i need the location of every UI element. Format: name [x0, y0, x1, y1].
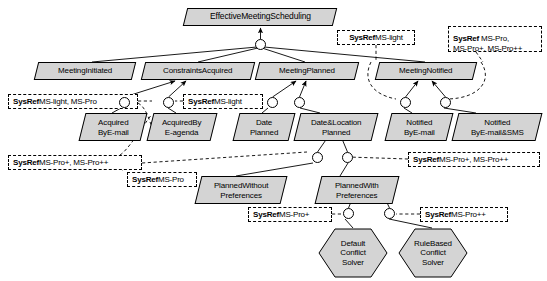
goal-node-root[interactable]: EffectiveMeetingScheduling	[183, 8, 337, 26]
goal-node-notified-by-email-sms[interactable]: Notified ByE-mail&SMS	[452, 113, 543, 141]
sysref-annotation-2[interactable]: SysRef MS-light	[183, 94, 263, 109]
goal-node-constraints-acquired[interactable]: ConstraintsAcquired	[141, 62, 255, 80]
decomposition-node-datelocation-2[interactable]	[342, 152, 353, 163]
sysref-annotation-5[interactable]: SysRef MS-Pro+, MS-Pro++	[8, 155, 142, 170]
goal-label: Acquired ByE-mail	[98, 118, 129, 137]
task-node-rulebased-conflict-solver[interactable]: RuleBased Conflict Solver	[398, 228, 468, 278]
sysref-key: SysRef	[425, 210, 451, 220]
decomposition-node-planned-1[interactable]	[267, 97, 278, 108]
sysref-key: SysRef	[453, 34, 479, 43]
sysref-annotation-9[interactable]: SysRef MS-Pro++	[420, 207, 508, 222]
goal-label: Notified ByE-mail	[404, 118, 435, 137]
goal-label: MeetingPlanned	[279, 66, 335, 76]
sysref-annotation-8[interactable]: SysRef MS-Pro+	[248, 207, 332, 222]
decomposition-node-root[interactable]	[255, 39, 266, 50]
decomposition-node-datelocation-1[interactable]	[312, 152, 323, 163]
goal-node-acquired-by-eagenda[interactable]: AcquiredBy E-agenda	[147, 113, 218, 141]
sysref-annotation-6[interactable]: SysRef MS-Pro	[127, 172, 197, 187]
goal-label: EffectiveMeetingScheduling	[210, 12, 311, 22]
goal-label: AcquiredBy E-agenda	[162, 118, 201, 137]
sysref-key: SysRef	[13, 97, 39, 107]
goal-node-date-planned[interactable]: Date Planned	[233, 113, 296, 141]
sysref-key: SysRef	[188, 97, 214, 107]
decomposition-node-notified-2[interactable]	[440, 97, 451, 108]
goal-label: PlannedWithout Preferences	[214, 181, 268, 200]
sysref-value: MS-light	[214, 97, 242, 107]
sysref-annotation-4[interactable]: SysRef MS-Pro, MS-Pro+, MS-Pro++	[448, 26, 542, 52]
goal-label: MeetingNotified	[399, 66, 452, 76]
goal-node-planned-with-preferences[interactable]: PlannedWith Preferences	[315, 176, 400, 204]
sysref-annotation-3[interactable]: SysRef MS-light	[337, 30, 415, 45]
goal-node-meeting-initiated[interactable]: MeetingInitiated	[34, 62, 136, 80]
goal-label: MeetingInitiated	[58, 66, 112, 76]
task-label: Default Conflict Solver	[318, 228, 388, 278]
decomposition-node-notified-1[interactable]	[400, 97, 411, 108]
sysref-key: SysRef	[132, 175, 158, 185]
sysref-value: MS-Pro	[158, 175, 184, 185]
sysref-key: SysRef	[13, 158, 39, 168]
goal-node-date-location-planned[interactable]: Date&Location Planned	[294, 113, 379, 141]
goal-label: Date&Location Planned	[311, 118, 362, 137]
decomposition-node-plannedwith-2[interactable]	[384, 208, 395, 219]
task-node-default-conflict-solver[interactable]: Default Conflict Solver	[318, 228, 388, 278]
decomposition-node-plannedwith-1[interactable]	[343, 208, 354, 219]
sysref-value: MS-light	[375, 33, 403, 43]
goal-model-diagram: EffectiveMeetingScheduling MeetingInitia…	[0, 0, 547, 281]
goal-label: Notified ByE-mail&SMS	[471, 118, 524, 137]
goal-node-acquired-by-email[interactable]: Acquired ByE-mail	[79, 113, 148, 141]
sysref-key: SysRef	[253, 210, 279, 220]
sysref-value: MS-Pro+, MS-Pro++	[39, 158, 108, 168]
sysref-annotation-7[interactable]: SysRef MS-Pro+, MS-Pro++	[408, 152, 540, 167]
sysref-value: MS-Pro+	[279, 210, 309, 220]
goal-label: Date Planned	[250, 118, 278, 137]
decomposition-node-constraints-1[interactable]	[119, 97, 130, 108]
sysref-value: MS-Pro++	[451, 210, 486, 220]
goal-label: ConstraintsAcquired	[163, 66, 232, 76]
goal-label: PlannedWith Preferences	[335, 181, 379, 200]
decomposition-node-constraints-2[interactable]	[163, 97, 174, 108]
goal-node-notified-by-email[interactable]: Notified ByE-mail	[385, 113, 454, 141]
sysref-value: MS-light, MS-Pro	[39, 97, 97, 107]
sysref-key: SysRef	[349, 33, 375, 43]
task-label: RuleBased Conflict Solver	[398, 228, 468, 278]
decomposition-node-planned-2[interactable]	[294, 97, 305, 108]
goal-node-meeting-notified[interactable]: MeetingNotified	[375, 62, 477, 80]
sysref-value: MS-Pro+, MS-Pro++	[439, 155, 508, 165]
goal-node-planned-without-preferences[interactable]: PlannedWithout Preferences	[195, 176, 288, 204]
sysref-key: SysRef	[413, 155, 439, 165]
goal-node-meeting-planned[interactable]: MeetingPlanned	[255, 62, 359, 80]
